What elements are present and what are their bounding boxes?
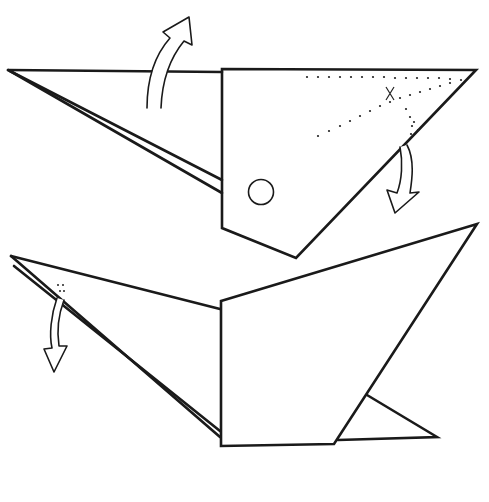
- fold-down-arrow-2-icon: [44, 298, 67, 372]
- beak-shape: [8, 70, 222, 193]
- step-2-figure: [11, 224, 477, 446]
- step-1-figure: [8, 17, 476, 258]
- eye-circle: [249, 180, 274, 205]
- dotted-fold-lines: [306, 76, 462, 137]
- fold-down-arrow-icon: [387, 145, 419, 213]
- tail-shape: [338, 395, 437, 440]
- origami-diagram: origami-fold-instructions: [0, 0, 489, 502]
- head-shape: [222, 69, 476, 258]
- diagram-svg: [0, 0, 489, 502]
- x-mark-icon: [386, 87, 394, 100]
- beak-shape-2: [11, 256, 220, 437]
- fold-up-arrow-icon: [147, 17, 192, 108]
- body-shape: [221, 224, 477, 446]
